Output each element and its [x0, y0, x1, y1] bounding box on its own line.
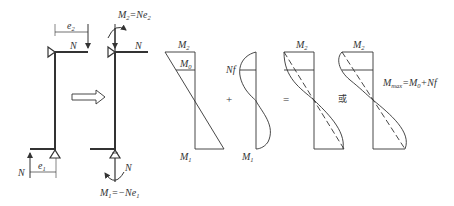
nf-label: Nf	[225, 64, 237, 75]
combined-moment-diagram-a	[284, 52, 344, 149]
d2-m1-label: M1	[241, 151, 254, 163]
e2-label: e2	[67, 20, 75, 32]
column-moment-diagram: e2 N e1 N M2=Ne2 N N M1=−Ne1 M2 M0 M1 +	[0, 0, 454, 206]
or-text: 或	[338, 93, 347, 104]
top-moment-arrow-icon	[108, 27, 126, 38]
second-order-moment-diagram	[240, 52, 271, 149]
mmax-formula: Mmax=M0+Nf	[382, 77, 438, 89]
right-bottom-force-label: N	[124, 162, 133, 173]
linear-moment-line	[165, 52, 224, 149]
d1-m1-label: M1	[179, 151, 192, 163]
total-moment-curve	[339, 52, 407, 149]
bottom-support-icon	[110, 150, 120, 158]
d3-m2-label: M2	[295, 39, 308, 51]
hollow-right-arrow-icon	[72, 90, 105, 104]
e1-label: e1	[38, 160, 46, 172]
left-bottom-force-label: N	[17, 167, 26, 178]
bottom-moment-label: M1=−Ne1	[99, 187, 139, 199]
equals-sign: =	[283, 93, 289, 105]
top-support-icon	[108, 47, 115, 57]
top-support-icon	[48, 47, 55, 57]
combined-moment-diagram-b	[339, 52, 407, 149]
d1-m2-label: M2	[177, 39, 190, 51]
top-moment-label: M2=Ne2	[117, 9, 151, 21]
left-column	[30, 24, 88, 178]
sine-curve	[240, 52, 271, 149]
d4-m2-label: M2	[352, 39, 365, 51]
left-top-force-label: N	[69, 40, 78, 51]
plus-sign: +	[226, 93, 232, 105]
bottom-support-icon	[50, 150, 60, 158]
first-order-moment-diagram	[165, 52, 224, 149]
right-top-force-label: N	[134, 40, 143, 51]
d1-m0-label: M0	[179, 58, 192, 70]
